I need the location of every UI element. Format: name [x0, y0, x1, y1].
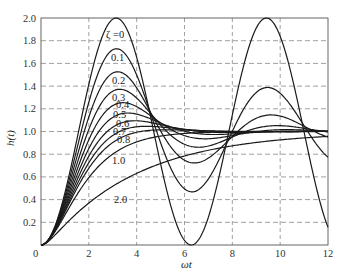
x-tick-label: 2: [86, 248, 91, 259]
x-tick-label: 12: [323, 248, 334, 259]
x-tick-label: 10: [275, 248, 286, 259]
y-tick-label: 0.2: [23, 217, 36, 228]
x-axis-title: ωt: [181, 258, 193, 270]
curve-label: 0.8: [117, 134, 130, 145]
y-axis-title: h(t): [4, 130, 17, 146]
x-tick-label: 8: [230, 248, 235, 259]
y-tick-label: 1.8: [23, 35, 36, 46]
curve-label: 1.0: [112, 155, 125, 166]
x-tick-label: 4: [134, 248, 140, 259]
y-tick-label: 2.0: [23, 13, 36, 24]
x-tick-labels: 24681012: [86, 248, 333, 259]
curve-label: ζ =0: [106, 29, 124, 41]
y-tick-label: 1.6: [23, 58, 36, 69]
curve-label: 2.0: [114, 194, 127, 205]
y-tick-label: 1.2: [23, 103, 36, 114]
y-tick-labels: 0.20.40.60.81.01.21.41.61.82.0: [23, 13, 37, 228]
curve-label: 0.2: [112, 75, 125, 86]
y-tick-label: 0.4: [23, 194, 37, 205]
y-tick-label: 0.6: [23, 171, 36, 182]
step-response-chart: ζ =00.10.20.30.40.50.60.70.81.02.0 24681…: [0, 0, 344, 278]
curve-label: 0.1: [111, 52, 124, 63]
y-tick-label: 0.8: [23, 149, 36, 160]
y-tick-label: 1.0: [23, 126, 36, 137]
y-tick-label: 1.4: [23, 81, 37, 92]
origin-label: 0: [33, 248, 38, 259]
